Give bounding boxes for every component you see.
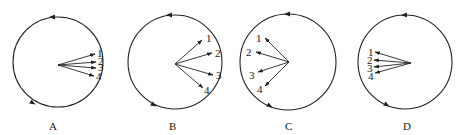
vector-number-label: 4 xyxy=(368,70,374,82)
panel-label: C xyxy=(285,120,292,132)
panel-label: D xyxy=(403,120,411,132)
direction-arrow-icon xyxy=(401,13,407,18)
panel-b: 1234B xyxy=(128,13,222,132)
panel-a: 1234A xyxy=(13,15,104,132)
direction-arrow-icon xyxy=(266,102,274,109)
orbit-circle xyxy=(13,17,103,107)
diagram-canvas: 1234A1234B1234C1234D xyxy=(0,0,463,135)
vector-number-label: 1 xyxy=(256,32,262,44)
vector-arrow-3 xyxy=(175,64,213,75)
vector-number-label: 2 xyxy=(215,47,221,59)
panel-c: 1234C xyxy=(240,12,336,132)
vector-number-label: 4 xyxy=(96,70,102,82)
direction-arrow-icon xyxy=(166,13,172,18)
direction-arrow-icon xyxy=(49,15,55,20)
direction-arrow-icon xyxy=(383,101,391,108)
direction-arrow-icon xyxy=(284,12,290,17)
vector-number-label: 4 xyxy=(257,83,263,95)
panel-label: A xyxy=(49,120,57,132)
vector-number-label: 2 xyxy=(246,46,252,58)
vector-number-label: 3 xyxy=(216,69,222,81)
panel-d: 1234D xyxy=(358,13,452,132)
vector-number-label: 1 xyxy=(206,32,212,44)
vector-number-label: 4 xyxy=(204,84,210,96)
panel-label: B xyxy=(169,120,176,132)
vector-number-label: 3 xyxy=(249,69,255,81)
